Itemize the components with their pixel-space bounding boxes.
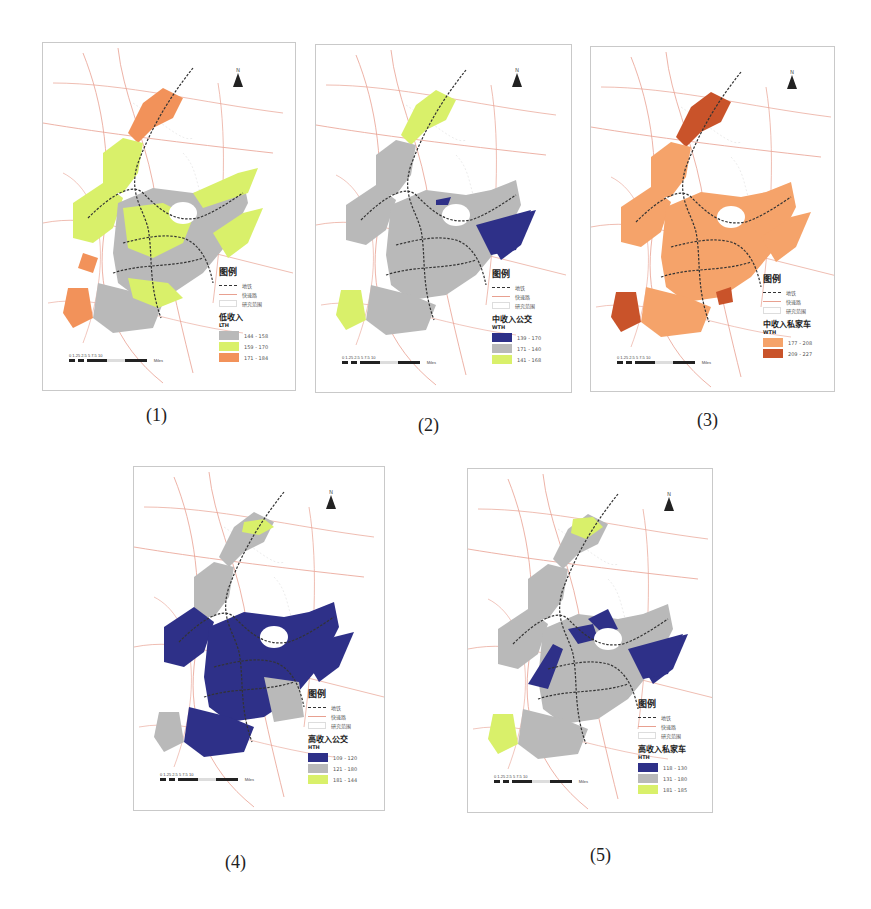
legend-range: 171 - 184 xyxy=(244,355,268,361)
legend-title: 图例 xyxy=(763,272,835,285)
north-arrow-icon xyxy=(664,497,674,511)
legend-swatch xyxy=(308,764,328,773)
scale-bar: 0 1.25 2.5 5 7.5 10 Miles xyxy=(342,355,422,364)
scale-unit: Miles xyxy=(154,358,163,363)
legend-study-area-label: 研究范围 xyxy=(331,722,351,729)
scale-bar: 0 1.25 2.5 5 7.5 10 Miles xyxy=(69,353,149,362)
legend-swatch xyxy=(219,353,239,362)
legend-range: 177 - 208 xyxy=(788,340,812,346)
legend-range: 144 - 158 xyxy=(244,333,268,339)
map-legend: 图例 地铁 快速路 研究范围 低收入 LTH 144 - 158 159 - 1… xyxy=(219,265,295,363)
legend-swatch xyxy=(763,338,783,347)
legend-unit: HTH xyxy=(638,754,712,760)
north-arrow-icon xyxy=(787,75,797,89)
expressway-line-icon xyxy=(219,294,237,295)
metro-line-icon xyxy=(763,292,781,293)
legend-study-area-label: 研究范围 xyxy=(661,732,681,739)
map-legend: 图例 地铁 快速路 研究范围 中收入私家车 WTH 177 - 208 209 … xyxy=(763,272,835,359)
legend-metro-label: 地铁 xyxy=(786,289,796,296)
legend-swatch xyxy=(638,774,658,783)
legend-range: 118 - 130 xyxy=(663,765,687,771)
metro-line-icon xyxy=(638,717,656,718)
legend-expressway-label: 快速路 xyxy=(242,291,257,298)
legend-range: 109 - 120 xyxy=(333,755,357,761)
panel-label-1: (1) xyxy=(146,405,167,426)
legend-range: 131 - 180 xyxy=(663,776,687,782)
study-area-swatch xyxy=(219,300,237,307)
legend-metro-label: 地铁 xyxy=(242,282,252,289)
legend-expressway-label: 快速路 xyxy=(515,293,530,300)
expressway-line-icon xyxy=(763,301,781,302)
north-arrow: N xyxy=(664,491,674,511)
north-arrow: N xyxy=(233,67,243,87)
map-legend: 图例 地铁 快速路 研究范围 中收入公交 WTH 139 - 170 171 -… xyxy=(492,267,570,365)
legend-swatch xyxy=(492,355,512,364)
legend-title: 图例 xyxy=(638,697,712,710)
legend-swatch xyxy=(308,753,328,762)
map-legend: 图例 地铁 快速路 研究范围 高收入公交 HTH 109 - 120 121 -… xyxy=(308,687,384,785)
legend-unit: WTH xyxy=(763,329,835,335)
panel-label-4: (4) xyxy=(225,852,246,873)
legend-swatch xyxy=(638,785,658,794)
legend-title: 图例 xyxy=(219,265,295,278)
scale-ticks: 0 1.25 2.5 5 7.5 10 xyxy=(342,355,422,360)
legend-swatch xyxy=(492,333,512,342)
legend-study-area-label: 研究范围 xyxy=(242,300,262,307)
study-area-swatch xyxy=(308,722,326,729)
legend-swatch xyxy=(763,349,783,358)
legend-unit: HTH xyxy=(308,744,384,750)
legend-class-title: 中收入私家车 xyxy=(763,318,835,329)
legend-class-title: 中收入公交 xyxy=(492,313,570,324)
north-arrow-icon xyxy=(233,73,243,87)
legend-expressway-label: 快速路 xyxy=(786,298,801,305)
panel-label-5: (5) xyxy=(590,845,611,866)
legend-range: 121 - 180 xyxy=(333,766,357,772)
map-panel-2: N 图例 地铁 快速路 研究范围 中收入公交 WTH 139 - 170 171… xyxy=(315,44,572,393)
legend-range: 139 - 170 xyxy=(517,335,541,341)
map-panel-3: N 图例 地铁 快速路 研究范围 中收入私家车 WTH 177 - 208 20… xyxy=(590,46,835,392)
legend-expressway-label: 快速路 xyxy=(661,723,676,730)
scale-ticks: 0 1.25 2.5 5 7.5 10 xyxy=(494,774,574,779)
legend-metro-label: 地铁 xyxy=(331,704,341,711)
legend-swatch xyxy=(219,331,239,340)
map-panel-5: N 图例 地铁 快速路 研究范围 高收入私家车 HTH 118 - 130 13… xyxy=(467,468,713,813)
scale-unit: Miles xyxy=(427,360,436,365)
legend-swatch xyxy=(219,342,239,351)
north-arrow-icon xyxy=(512,73,522,87)
metro-line-icon xyxy=(308,707,326,708)
legend-range: 159 - 170 xyxy=(244,344,268,350)
legend-range: 181 - 144 xyxy=(333,777,357,783)
map-panel-1: N 图例 地铁 快速路 研究范围 低收入 LTH 144 - 158 159 -… xyxy=(42,42,296,391)
scale-bar: 0 1.25 2.5 5 7.5 10 Miles xyxy=(160,772,240,781)
scale-unit: Miles xyxy=(702,360,711,365)
panel-label-3: (3) xyxy=(697,410,718,431)
map-panel-4: N 图例 地铁 快速路 研究范围 高收入公交 HTH 109 - 120 121… xyxy=(133,466,385,811)
legend-class-title: 低收入 xyxy=(219,311,295,322)
north-arrow: N xyxy=(326,489,336,509)
legend-class-title: 高收入私家车 xyxy=(638,743,712,754)
scale-ticks: 0 1.25 2.5 5 7.5 10 xyxy=(617,355,697,360)
metro-line-icon xyxy=(219,285,237,286)
metro-line-icon xyxy=(492,287,510,288)
legend-swatch xyxy=(308,775,328,784)
expressway-line-icon xyxy=(308,716,326,717)
legend-metro-label: 地铁 xyxy=(661,714,671,721)
north-arrow: N xyxy=(512,67,522,87)
legend-range: 209 - 227 xyxy=(788,351,812,357)
legend-range: 171 - 140 xyxy=(517,346,541,352)
north-arrow: N xyxy=(787,69,797,89)
legend-expressway-label: 快速路 xyxy=(331,713,346,720)
legend-range: 141 - 168 xyxy=(517,357,541,363)
legend-swatch xyxy=(638,763,658,772)
scale-bar: 0 1.25 2.5 5 7.5 10 Miles xyxy=(617,355,697,364)
legend-study-area-label: 研究范围 xyxy=(786,307,806,314)
scale-unit: Miles xyxy=(245,777,254,782)
expressway-line-icon xyxy=(492,296,510,297)
scale-ticks: 0 1.25 2.5 5 7.5 10 xyxy=(69,353,149,358)
legend-class-title: 高收入公交 xyxy=(308,733,384,744)
legend-unit: WTH xyxy=(492,324,570,330)
study-area-swatch xyxy=(763,307,781,314)
north-arrow-icon xyxy=(326,495,336,509)
panel-label-2: (2) xyxy=(418,415,439,436)
study-area-swatch xyxy=(492,302,510,309)
